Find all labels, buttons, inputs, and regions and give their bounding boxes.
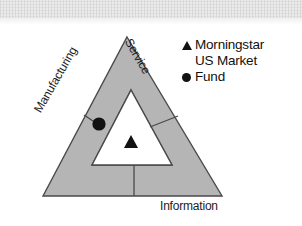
triangle-diagram [0, 0, 302, 226]
legend-item-fund: Fund [182, 69, 298, 85]
legend-label-morningstar-line2: US Market [182, 53, 257, 69]
axis-label-information: Information [160, 199, 218, 213]
legend-label-morningstar-line1: Morningstar [195, 37, 264, 53]
triangle-marker-icon [182, 37, 195, 53]
legend-item-morningstar-line2: US Market [182, 53, 298, 69]
legend-item-morningstar-us-market: Morningstar [182, 37, 298, 53]
triangle-chart-figure: Service Manufacturing Information Mornin… [0, 0, 302, 226]
fund-data-point [92, 117, 105, 130]
legend-label-fund: Fund [195, 69, 225, 85]
circle-marker-icon [182, 69, 195, 85]
legend: Morningstar US Market Fund [182, 37, 298, 85]
